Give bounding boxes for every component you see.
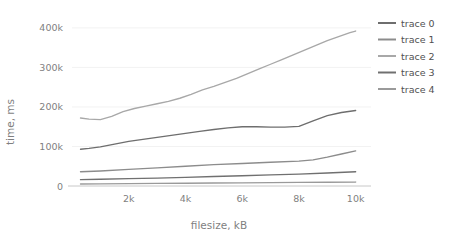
y-axis-title: time, ms	[4, 99, 16, 145]
legend-label-2[interactable]: trace 2	[401, 51, 435, 62]
data-series-group	[81, 31, 356, 184]
legend-label-3[interactable]: trace 3	[401, 67, 435, 78]
x-axis-title: filesize, kB	[191, 219, 247, 231]
chart-canvas: 0100k200k300k400k 2k4k6k8k10k trace 0tra…	[0, 0, 458, 252]
x-tick-label-1: 4k	[180, 193, 192, 204]
trace-line-0	[81, 111, 356, 150]
x-axis-tick-labels: 2k4k6k8k10k	[123, 193, 365, 204]
legend: trace 0trace 1trace 2trace 3trace 4	[378, 18, 435, 95]
legend-label-0[interactable]: trace 0	[401, 18, 435, 29]
y-axis-tick-labels: 0100k200k300k400k	[39, 22, 63, 191]
trace-line-1	[81, 151, 356, 172]
y-tick-label-0: 0	[57, 181, 63, 192]
trace-line-3	[81, 172, 356, 180]
y-tick-label-4: 400k	[39, 22, 63, 33]
legend-label-4[interactable]: trace 4	[401, 84, 435, 95]
x-tick-label-4: 10k	[347, 193, 365, 204]
legend-label-1[interactable]: trace 1	[401, 34, 435, 45]
trace-line-4	[81, 182, 356, 184]
x-tick-label-2: 6k	[236, 193, 248, 204]
y-tick-label-2: 200k	[39, 101, 63, 112]
y-tick-label-3: 300k	[39, 62, 63, 73]
y-tick-label-1: 100k	[39, 141, 63, 152]
trace-line-2	[81, 31, 356, 120]
x-tick-label-0: 2k	[123, 193, 135, 204]
line-chart: 0100k200k300k400k 2k4k6k8k10k trace 0tra…	[0, 0, 458, 252]
x-tick-label-3: 8k	[293, 193, 305, 204]
